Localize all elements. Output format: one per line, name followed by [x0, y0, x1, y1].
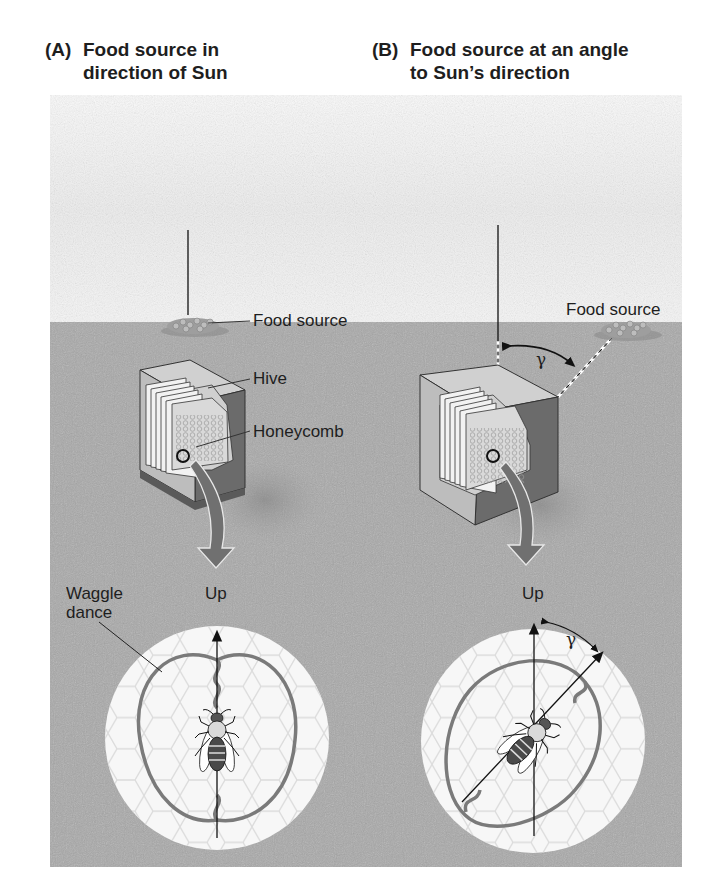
panel-b-gamma-dance-label: γ: [566, 630, 576, 649]
panel-a-up-label: Up: [205, 584, 227, 603]
sky: [50, 95, 682, 325]
panel-a-hive-label: Hive: [253, 369, 287, 388]
panel-a-honeycomb-label: Honeycomb: [253, 422, 344, 441]
panel-a-waggle-label-line2: dance: [66, 603, 112, 622]
waggle-dance-illustration: [0, 0, 709, 896]
panel-b-up-label: Up: [522, 584, 544, 603]
panel-a-food-source-label: Food source: [253, 311, 348, 330]
panel-b-food-source-label: Food source: [566, 300, 661, 319]
panel-a-dance-disc: [105, 626, 329, 850]
panel-b-gamma-ground-label: γ: [536, 350, 546, 369]
panel-a-waggle-label-line1: Waggle: [66, 584, 123, 603]
